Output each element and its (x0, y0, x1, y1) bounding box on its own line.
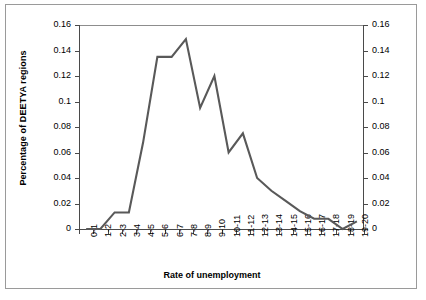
y-axis-right-tick (364, 51, 368, 52)
y-axis-right-tick (364, 153, 368, 154)
y-axis-right-tick (364, 25, 368, 26)
plot-area: 00.020.040.060.080.10.120.140.16 00.020.… (79, 25, 364, 229)
y-axis-left-tick-label: 0.08 (27, 122, 71, 131)
y-axis-right-tick-label: 0.12 (372, 71, 416, 80)
x-axis-title: Rate of unemployment (6, 270, 418, 280)
y-axis-left-tick-label: 0.14 (27, 46, 71, 55)
y-axis-right-tick (364, 178, 368, 179)
y-axis-right-tick-label: 0.14 (372, 46, 416, 55)
y-axis-left-tick-label: 0.02 (27, 199, 71, 208)
y-axis-right-tick-label: 0 (372, 224, 416, 233)
y-axis-right-tick (364, 102, 368, 103)
y-axis-left-tick-label: 0.16 (27, 20, 71, 29)
y-axis-right-tick-label: 0.02 (372, 199, 416, 208)
y-axis-right-tick-label: 0.1 (372, 97, 416, 106)
y-axis-right-tick (364, 127, 368, 128)
series-line-path (86, 39, 357, 229)
x-axis-tick (79, 230, 80, 234)
y-axis-right-tick-label: 0.08 (372, 122, 416, 131)
y-axis-left-tick-label: 0.1 (27, 97, 71, 106)
chart-figure: Percentage of DEETYA regions Rate of une… (5, 4, 417, 289)
y-axis-right-tick-label: 0.16 (372, 20, 416, 29)
y-axis-right-tick (364, 76, 368, 77)
y-axis-right-tick (364, 204, 368, 205)
y-axis-left-tick-label: 0.12 (27, 71, 71, 80)
y-axis-left-tick-label: 0.04 (27, 173, 71, 182)
series-line-chart (79, 25, 364, 230)
y-axis-right-tick-label: 0.06 (372, 148, 416, 157)
y-axis-left-tick-label: 0.06 (27, 148, 71, 157)
y-axis-right-tick-label: 0.04 (372, 173, 416, 182)
y-axis-left-tick-label: 0 (27, 224, 71, 233)
